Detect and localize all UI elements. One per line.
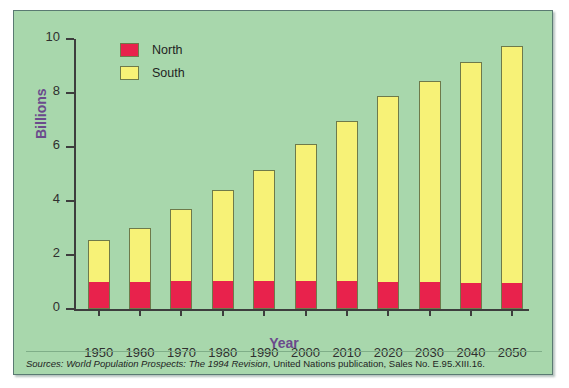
bar-segment-south [419, 81, 441, 282]
bar-segment-north [129, 282, 151, 309]
y-tick-label: 2 [53, 245, 60, 260]
bar-segment-south [129, 228, 151, 282]
y-tick: 8 [66, 92, 74, 94]
x-tick [139, 311, 141, 316]
y-axis-line [74, 39, 76, 311]
bar-segment-north [170, 281, 192, 309]
chart-figure: Billions Year North South 0246810 195019… [13, 10, 553, 375]
bar-segment-north [377, 282, 399, 309]
source-suffix: , United Nations publication, Sales No. … [268, 358, 485, 369]
bar-segment-south [170, 209, 192, 281]
x-tick [180, 311, 182, 316]
bar-segment-south [212, 190, 234, 280]
bar-segment-north [419, 282, 441, 309]
bar-segment-south [88, 240, 110, 282]
bar-2030 [419, 81, 441, 309]
bar-1970 [170, 209, 192, 309]
bar-segment-north [212, 281, 234, 309]
source-footnote: Sources: World Population Prospects: The… [26, 358, 542, 369]
source-prefix: Sources: [26, 358, 64, 369]
bar-2040 [460, 62, 482, 309]
bar-2000 [295, 144, 317, 309]
bar-1980 [212, 190, 234, 309]
x-axis-line [74, 309, 529, 311]
y-axis-title: Billions [33, 88, 49, 139]
bar-segment-north [253, 281, 275, 309]
y-tick: 6 [66, 146, 74, 148]
y-tick: 2 [66, 254, 74, 256]
y-tick: 4 [66, 200, 74, 202]
bar-segment-south [377, 96, 399, 282]
bar-segment-north [336, 281, 358, 309]
source-title: World Population Prospects: The 1994 Rev… [66, 358, 268, 369]
bar-1950 [88, 240, 110, 309]
x-tick [387, 311, 389, 316]
bar-2010 [336, 121, 358, 309]
x-tick [470, 311, 472, 316]
bar-segment-north [88, 282, 110, 309]
y-tick: 10 [66, 38, 74, 40]
y-tick-label: 6 [53, 137, 60, 152]
bar-2050 [501, 46, 523, 309]
y-tick-label: 8 [53, 83, 60, 98]
footnote-divider [26, 351, 542, 352]
x-tick [222, 311, 224, 316]
y-tick-label: 10 [46, 29, 60, 44]
x-tick [346, 311, 348, 316]
bar-segment-south [460, 62, 482, 283]
bar-segment-south [501, 46, 523, 284]
x-tick [305, 311, 307, 316]
plot-area: 0246810 19501960197019801990200020102020… [74, 39, 529, 311]
bar-1990 [253, 170, 275, 309]
bar-2020 [377, 96, 399, 309]
y-tick-label: 0 [53, 299, 60, 314]
y-tick-label: 4 [53, 191, 60, 206]
x-tick [511, 311, 513, 316]
bar-segment-north [295, 281, 317, 309]
bar-segment-south [295, 144, 317, 280]
bar-segment-south [253, 170, 275, 281]
x-tick [263, 311, 265, 316]
x-tick [429, 311, 431, 316]
bar-segment-north [460, 283, 482, 309]
y-tick: 0 [66, 308, 74, 310]
bar-segment-south [336, 121, 358, 280]
bar-1960 [129, 228, 151, 309]
bar-segment-north [501, 283, 523, 309]
x-tick [98, 311, 100, 316]
